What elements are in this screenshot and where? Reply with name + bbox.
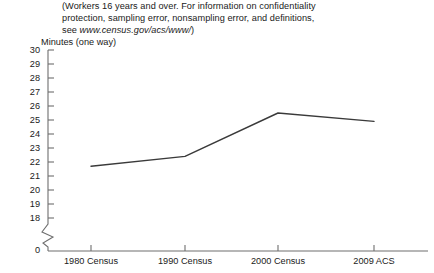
x-axis-tick-marks <box>91 245 374 251</box>
y-axis-tick-marks <box>48 50 54 218</box>
y-axis-tick-label: 20 <box>30 185 40 195</box>
data-series-line <box>91 113 374 166</box>
y-axis-tick-label: 28 <box>30 73 40 83</box>
y-axis-tick-label: 23 <box>30 143 40 153</box>
y-axis-tick-label: 26 <box>30 101 40 111</box>
y-axis-tick-labels: 302928272625242322212019180 <box>30 45 40 255</box>
line-chart-plot: 302928272625242322212019180 1980 Census1… <box>0 0 434 273</box>
y-axis-break-symbol <box>42 218 53 251</box>
x-axis-tick-label: 1990 Census <box>158 256 213 266</box>
x-axis-tick-label: 1980 Census <box>64 256 119 266</box>
x-axis-tick-label: 2000 Census <box>251 256 306 266</box>
y-axis-tick-label: 27 <box>30 87 40 97</box>
y-axis-tick-label: 25 <box>30 115 40 125</box>
y-axis-tick-label: 30 <box>30 45 40 55</box>
y-axis-tick-label: 19 <box>30 199 40 209</box>
y-axis-tick-label: 24 <box>30 129 40 139</box>
y-axis-tick-label: 21 <box>30 171 40 181</box>
x-axis-tick-label: 2009 ACS <box>353 256 394 266</box>
y-axis-tick-label: 18 <box>30 213 40 223</box>
x-axis-tick-labels: 1980 Census1990 Census2000 Census2009 AC… <box>64 256 395 266</box>
y-axis-tick-label: 22 <box>30 157 40 167</box>
chart-figure: (Workers 16 years and over. For informat… <box>0 0 434 273</box>
y-axis-tick-label: 0 <box>35 245 40 255</box>
y-axis-tick-label: 29 <box>30 59 40 69</box>
